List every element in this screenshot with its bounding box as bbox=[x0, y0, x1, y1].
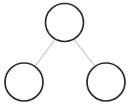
node-layer bbox=[5, 4, 125, 102]
edge-layer bbox=[36, 40, 94, 66]
graph-node-left[interactable] bbox=[5, 63, 43, 101]
node-circle-root[interactable] bbox=[46, 4, 84, 42]
node-circle-right[interactable] bbox=[87, 63, 125, 101]
graph-svg bbox=[0, 0, 137, 110]
graph-node-right[interactable] bbox=[87, 63, 125, 101]
diagram-canvas bbox=[0, 0, 137, 110]
graph-edge-root-left bbox=[36, 40, 55, 66]
node-circle-left[interactable] bbox=[5, 63, 43, 101]
graph-edge-root-right bbox=[74, 40, 94, 66]
graph-node-root[interactable] bbox=[46, 4, 84, 42]
